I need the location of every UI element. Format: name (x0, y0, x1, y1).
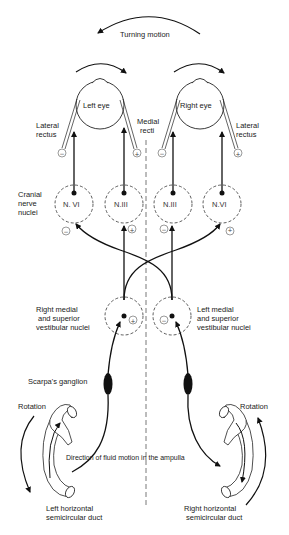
right-vestibular-label: Right medial (36, 305, 78, 314)
svg-text:−: − (64, 228, 69, 235)
svg-text:N. VI: N. VI (63, 200, 80, 209)
svg-text:recti: recti (140, 126, 155, 135)
crossing-fibers (76, 224, 220, 300)
right-eye: Right eye (176, 79, 224, 130)
cranial-label: Cranial (18, 190, 42, 199)
turning-motion-label: Turning motion (120, 30, 170, 39)
vestibulo-ocular-diagram: Turning motion Left eye Right eye − + − … (0, 0, 289, 535)
svg-text:N.III: N.III (114, 200, 128, 209)
svg-text:nerve: nerve (18, 199, 37, 208)
medial-recti-label: Medial (137, 117, 159, 126)
right-scarpa-ganglion (184, 373, 193, 395)
right-eye-rotation-arrow (174, 64, 224, 73)
rotation-left-arrow (21, 416, 34, 492)
nucleus-n6-left: N. VI − (55, 185, 93, 235)
svg-text:+: + (135, 150, 140, 157)
left-vestibular-label: Left medial (197, 305, 234, 314)
svg-text:+: + (228, 226, 233, 233)
rotation-left-label: Rotation (18, 402, 46, 411)
muscle-signs: − + − + (58, 149, 242, 157)
nucleus-n3-right: N.III − (154, 185, 192, 233)
svg-text:vestibular nuclei: vestibular nuclei (197, 323, 251, 332)
svg-text:rectus: rectus (36, 130, 57, 139)
svg-text:vestibular nuclei: vestibular nuclei (36, 323, 90, 332)
svg-text:rectus: rectus (236, 130, 257, 139)
svg-text:nuclei: nuclei (18, 208, 38, 217)
left-eye: Left eye (76, 79, 124, 130)
svg-text:Left eye: Left eye (83, 101, 110, 110)
fluid-direction-label: Direction of fluid motion in the ampulla (66, 454, 185, 462)
svg-text:and superior: and superior (197, 314, 239, 323)
nucleus-n6-right: N.VI + (203, 185, 241, 235)
svg-text:N.VI: N.VI (212, 200, 227, 209)
svg-text:+: + (236, 150, 241, 157)
svg-text:−: − (60, 150, 65, 157)
right-lateral-rectus-label: Lateral (236, 121, 259, 130)
left-scarpa-ganglion (104, 373, 113, 395)
svg-text:N.III: N.III (163, 200, 177, 209)
rotation-right-label: Rotation (240, 402, 268, 411)
motor-arrows (74, 128, 222, 193)
left-eye-rotation-arrow (76, 64, 126, 73)
svg-text:and superior: and superior (38, 314, 80, 323)
svg-text:−: − (162, 226, 167, 233)
svg-text:+: + (130, 226, 135, 233)
left-duct-label: Left horizontal (46, 504, 93, 513)
right-vestibular-nucleus: + (105, 297, 143, 335)
svg-text:+: + (131, 317, 136, 324)
nucleus-n3-left: N.III + (105, 185, 143, 233)
right-duct-label: Right horizontal (184, 504, 236, 513)
left-vestibular-nucleus: − (153, 297, 191, 335)
scarpa-label: Scarpa's ganglion (28, 377, 87, 386)
svg-text:Right eye: Right eye (180, 101, 212, 110)
svg-text:semicircular duct: semicircular duct (46, 513, 103, 522)
svg-text:−: − (160, 150, 165, 157)
left-semicircular-duct (43, 404, 79, 499)
svg-text:−: − (162, 317, 167, 324)
right-semicircular-duct (218, 404, 254, 499)
left-lateral-rectus-label: Lateral (36, 121, 59, 130)
svg-text:semicircular duct: semicircular duct (186, 513, 243, 522)
